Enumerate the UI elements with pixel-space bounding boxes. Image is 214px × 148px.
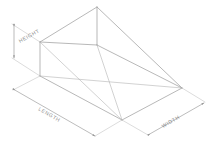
- edge-top-rear-left: [40, 7, 97, 42]
- dimension-length: LENGTH: [13, 76, 122, 136]
- edge-base-front-right: [122, 88, 182, 120]
- edge-top-ridge-right: [97, 7, 182, 88]
- edge-ramp-fold-left: [40, 42, 97, 45]
- edge-ramp-slope-left: [40, 42, 122, 120]
- width-dimension-label: WIDTH: [161, 114, 181, 129]
- width-extension-end: [182, 88, 205, 102]
- height-extension-bottom: [12, 58, 40, 76]
- length-extension-start: [13, 76, 40, 90]
- dimension-width: WIDTH: [122, 88, 205, 135]
- technical-drawing-canvas: HEIGHT LENGTH WIDTH: [0, 0, 214, 148]
- length-dimension-label: LENGTH: [38, 106, 62, 123]
- dimension-height: HEIGHT: [12, 24, 41, 76]
- width-extension-start: [122, 120, 148, 135]
- length-extension-end: [95, 120, 122, 136]
- edge-ramp-fold-right: [97, 45, 182, 88]
- wedge-solid: [40, 7, 182, 120]
